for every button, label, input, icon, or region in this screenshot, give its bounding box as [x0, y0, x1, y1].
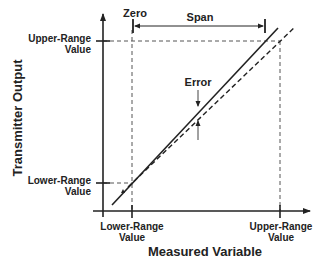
calibration-diagram: Zero Span Error Upper-Range Value Lower-… — [0, 0, 323, 266]
y-axis-label: Transmitter Output — [10, 59, 25, 177]
y-tick-upper-label-line1: Upper-Range — [28, 33, 91, 44]
y-tick-lower-label-line2: Value — [65, 186, 92, 197]
x-tick-upper-label-line2: Value — [268, 232, 295, 243]
ideal-response-line — [128, 27, 295, 187]
x-axis-label: Measured Variable — [148, 244, 262, 259]
x-tick-upper-label-line1: Upper-Range — [250, 221, 313, 232]
x-tick-lower-label-line2: Value — [119, 232, 146, 243]
span-label: Span — [187, 11, 214, 23]
x-tick-lower-label-line1: Lower-Range — [100, 221, 164, 232]
zero-label: Zero — [123, 7, 147, 19]
error-label: Error — [185, 76, 213, 88]
y-tick-upper-label-line2: Value — [65, 44, 92, 55]
y-tick-lower-label-line1: Lower-Range — [28, 175, 92, 186]
